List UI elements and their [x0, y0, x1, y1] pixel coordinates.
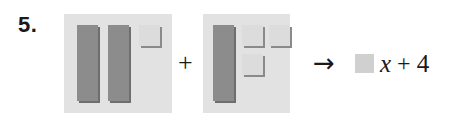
x-tile	[108, 25, 129, 101]
tile-panel-second-addend	[203, 14, 290, 113]
tile-panel-first-addend	[64, 14, 172, 113]
x-tile	[77, 25, 98, 101]
unit-tile	[269, 25, 290, 46]
unit-tile	[139, 25, 160, 46]
result-variable: x	[380, 51, 391, 76]
problem-number: 5.	[18, 14, 37, 36]
x-tile	[213, 25, 234, 101]
result-expression: x + 4	[355, 49, 429, 77]
answer-blank-tile[interactable]	[355, 54, 374, 73]
arrow-icon: →	[313, 50, 335, 76]
plus-operator: +	[178, 50, 193, 76]
result-constant: 4	[417, 51, 430, 76]
worksheet-problem: 5. + → x + 4	[0, 0, 460, 124]
unit-tile	[242, 25, 263, 46]
result-plus-operator: +	[397, 51, 411, 75]
unit-tile	[242, 54, 263, 75]
